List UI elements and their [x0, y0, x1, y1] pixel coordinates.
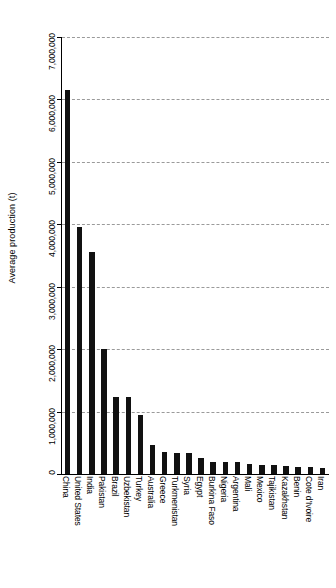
y-axis-tick-label: 7,000,000 [0, 32, 56, 42]
bar[interactable] [65, 90, 71, 474]
x-axis-category-label: United States [72, 476, 84, 586]
y-axis-tick-label-text: 7,000,000 [47, 33, 57, 70]
y-axis-tickmark [57, 474, 62, 475]
bar[interactable] [162, 452, 168, 474]
x-axis-category-label: Brazil [109, 476, 121, 586]
y-axis-tick-label: 0 [0, 469, 56, 479]
bar-chart: Average production (t) 01,000,0002,000,0… [0, 0, 336, 588]
bar[interactable] [320, 468, 326, 474]
y-axis-tick-label-text: 1,000,000 [47, 408, 57, 445]
y-axis-tick-label-text: 5,000,000 [47, 158, 57, 195]
y-axis-tick-label-text: 3,000,000 [47, 283, 57, 320]
bar[interactable] [101, 349, 107, 474]
x-axis-category-label: Nigeria [218, 476, 230, 586]
bar[interactable] [247, 464, 253, 474]
x-axis-category-label: India [84, 476, 96, 586]
bar[interactable] [308, 467, 314, 474]
y-axis-tick-label: 4,000,000 [0, 219, 56, 229]
y-axis-tick-label: 2,000,000 [0, 344, 56, 354]
y-axis-tickmark [57, 99, 62, 100]
x-axis-category-label: Kazakhstan [279, 476, 291, 586]
plot-area [62, 20, 329, 474]
x-axis-category-label: Tajikistan [266, 476, 278, 586]
y-axis-title-text: Average production (t) [7, 192, 17, 283]
bar[interactable] [89, 252, 95, 474]
x-axis-category-labels: ChinaUnited StatesIndiaPakistanBrazilUzb… [62, 476, 329, 586]
y-axis-tick-label-text: 6,000,000 [47, 95, 57, 132]
y-axis-tick-label: 6,000,000 [0, 94, 56, 104]
x-axis-category-label: Turkmenistan [169, 476, 181, 586]
bar[interactable] [223, 462, 229, 474]
x-axis-category-label: China [60, 476, 72, 586]
x-axis-category-label: Australia [145, 476, 157, 586]
y-axis-tick-label-text: 2,000,000 [47, 345, 57, 382]
y-axis-tick-label: 1,000,000 [0, 407, 56, 417]
y-axis-tick-labels: 01,000,0002,000,0003,000,0004,000,0005,0… [18, 0, 58, 476]
x-axis-category-label: Mexico [254, 476, 266, 586]
y-axis-tick-label-text: 4,000,000 [47, 220, 57, 257]
bars [62, 20, 329, 474]
y-axis-tickmark [57, 412, 62, 413]
y-axis-tick-label-text: 0 [47, 470, 57, 475]
y-axis-tickmark [57, 287, 62, 288]
bar[interactable] [210, 462, 216, 474]
x-axis-category-label: Cote d'Ivoire [303, 476, 315, 586]
bar[interactable] [113, 397, 119, 474]
x-axis-category-label: Pakistan [96, 476, 108, 586]
y-axis-tickmark [57, 162, 62, 163]
bar[interactable] [186, 453, 192, 474]
x-axis-category-label: Syria [181, 476, 193, 586]
x-axis-category-label: Argentina [230, 476, 242, 586]
y-axis-tickmark [57, 224, 62, 225]
bar[interactable] [138, 415, 144, 474]
x-axis-category-label: Egypt [194, 476, 206, 586]
y-axis-tick-label: 5,000,000 [0, 157, 56, 167]
bar[interactable] [259, 465, 265, 474]
x-axis-category-label: Benin [291, 476, 303, 586]
x-axis-category-label: Burkina Faso [206, 476, 218, 586]
bar[interactable] [150, 445, 156, 474]
x-axis-category-label: Iran [315, 476, 327, 586]
x-axis-category-label: Mali [242, 476, 254, 586]
bar[interactable] [271, 465, 277, 474]
y-axis-tick-label: 3,000,000 [0, 282, 56, 292]
x-axis-category-label: Turkey [133, 476, 145, 586]
y-axis-tickmark [57, 349, 62, 350]
x-axis-category-label: Greece [157, 476, 169, 586]
bar[interactable] [198, 458, 204, 474]
y-axis-tickmark [57, 37, 62, 38]
bar[interactable] [77, 227, 83, 474]
bar[interactable] [283, 466, 289, 474]
bar[interactable] [295, 467, 301, 474]
x-axis-category-label: Uzbekistan [121, 476, 133, 586]
x-axis-line [61, 474, 329, 475]
bar[interactable] [126, 397, 132, 474]
bar[interactable] [174, 453, 180, 474]
bar[interactable] [235, 462, 241, 474]
